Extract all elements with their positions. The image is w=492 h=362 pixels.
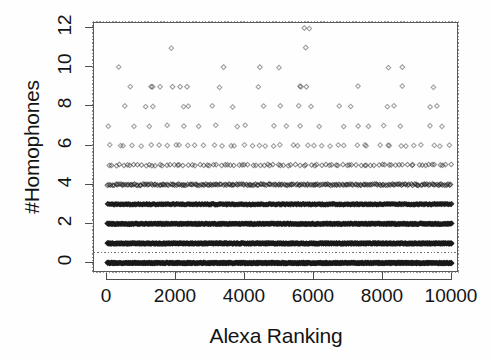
x-tick-label: 10000 [411,285,491,307]
plot-area [93,22,458,272]
x-tick-mark [244,272,245,280]
x-tick-label: 8000 [342,285,422,307]
reference-line [94,252,458,253]
scatter-plot-figure: #Homophones 024681012 020004000600080001… [0,0,492,362]
y-tick-label: 0 [48,251,78,273]
y-tick-label-text: 2 [56,208,74,234]
x-tick-mark [175,272,176,280]
x-tick-label: 6000 [273,285,353,307]
y-axis-title: #Homophones [14,12,50,282]
x-axis-line [106,279,452,280]
x-tick-label: 2000 [135,285,215,307]
x-tick-label: 4000 [204,285,284,307]
x-axis-title: Alexa Ranking [93,324,459,348]
y-tick-label: 2 [48,212,78,234]
y-tick-label: 8 [48,94,78,116]
y-tick-label: 4 [48,173,78,195]
x-tick-mark [106,272,107,280]
x-tick-label-group: 0200040006000800010000 [0,285,492,311]
x-tick-mark [382,272,383,280]
y-tick-label-text: 10 [56,51,74,77]
x-tick-mark [313,272,314,280]
y-tick-label-text: 6 [56,130,74,156]
y-tick-label-text: 4 [56,169,74,195]
y-tick-label-text: 12 [56,12,74,38]
y-tick-label-text: 8 [56,90,74,116]
y-tick-label: 12 [48,16,78,38]
x-tick-mark [451,272,452,280]
scatter-point-layer [94,23,458,272]
x-tick-label: 0 [66,285,146,307]
y-tick-label: 6 [48,134,78,156]
y-tick-label-text: 0 [56,247,74,273]
y-tick-label: 10 [48,55,78,77]
